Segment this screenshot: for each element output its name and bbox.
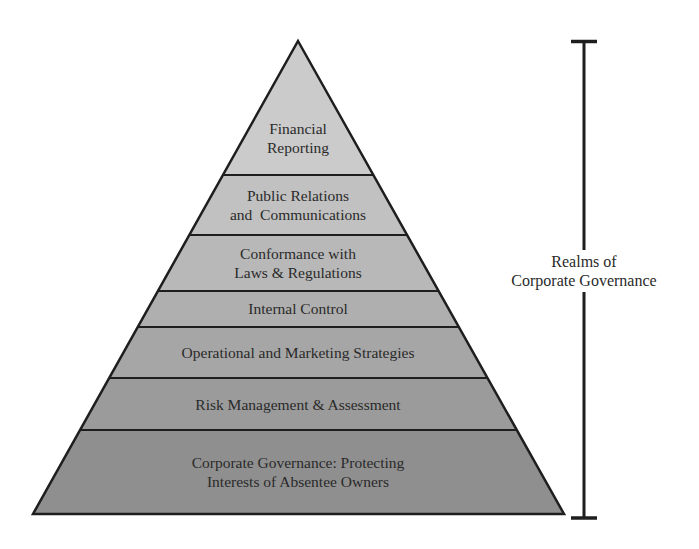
layer-label-line: Corporate Governance: Protecting xyxy=(192,453,405,472)
layer-label-line: and Communications xyxy=(230,205,366,224)
bracket-label-line: Realms of xyxy=(511,252,656,271)
bracket-label-line: Corporate Governance xyxy=(511,271,656,290)
layer-label-line: Reporting xyxy=(267,138,329,157)
layer-label-line: Operational and Marketing Strategies xyxy=(182,343,415,362)
pyramid-diagram: Financial Reporting Public Relations and… xyxy=(0,0,699,549)
layer-label-risk-management: Risk Management & Assessment xyxy=(195,395,400,414)
layer-label-conformance: Conformance with Laws & Regulations xyxy=(234,244,361,282)
layer-label-financial-reporting: Financial Reporting xyxy=(267,119,329,157)
layer-label-internal-control: Internal Control xyxy=(248,299,347,318)
layer-label-corporate-governance: Corporate Governance: Protecting Interes… xyxy=(192,453,405,491)
layer-label-line: Laws & Regulations xyxy=(234,263,361,282)
layer-label-operational-marketing: Operational and Marketing Strategies xyxy=(182,343,415,362)
layer-label-line: Public Relations xyxy=(230,186,366,205)
layer-label-line: Conformance with xyxy=(234,244,361,263)
layer-label-line: Interests of Absentee Owners xyxy=(192,472,405,491)
bracket-label-realms: Realms of Corporate Governance xyxy=(511,250,656,292)
layer-label-line: Risk Management & Assessment xyxy=(195,395,400,414)
layer-label-line: Financial xyxy=(267,119,329,138)
layer-label-public-relations: Public Relations and Communications xyxy=(230,186,366,224)
layer-label-line: Internal Control xyxy=(248,299,347,318)
